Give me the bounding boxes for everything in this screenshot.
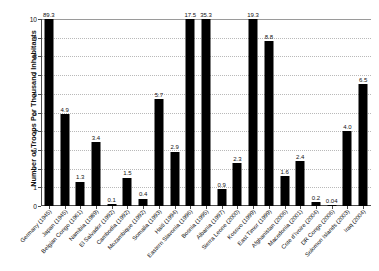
- bar-value-label: 35.3: [200, 12, 212, 18]
- bar-slot: 19.3: [245, 19, 261, 206]
- bar-series: 89.34.91.33.40.11.50.45.72.917.535.30.92…: [41, 19, 371, 206]
- y-axis-tick-label: 3: [33, 146, 37, 153]
- bar-value-label: 4.9: [60, 107, 68, 113]
- bar-slot: 4.9: [57, 19, 73, 206]
- bar-value-label: 5.7: [155, 92, 163, 98]
- y-axis-tick-label: 5: [33, 109, 37, 116]
- bar[interactable]: [343, 131, 352, 206]
- bar-value-label: 0.2: [312, 195, 320, 201]
- bar-slot: 0.9: [214, 19, 230, 206]
- bar-slot: 3.4: [88, 19, 104, 206]
- bar-slot: 1.3: [72, 19, 88, 206]
- bar[interactable]: [91, 142, 100, 206]
- bar-value-label: 4.0: [343, 124, 351, 130]
- bar[interactable]: [76, 182, 85, 206]
- bar-slot: 8.8: [261, 19, 277, 206]
- bar-slot: 4.0: [340, 19, 356, 206]
- bar-slot: 0.1: [104, 19, 120, 206]
- y-axis-tick-label: 7: [33, 72, 37, 79]
- bar[interactable]: [201, 19, 210, 206]
- y-axis-tick-label: 1: [33, 184, 37, 191]
- bar-slot: 89.3: [41, 19, 57, 206]
- bar-value-label: 2.4: [296, 154, 304, 160]
- bar-value-label: 0.4: [139, 191, 147, 197]
- bar-slot: 0.2: [308, 19, 324, 206]
- bar[interactable]: [60, 114, 69, 206]
- bar-value-label: 0.1: [108, 197, 116, 203]
- bar-value-label: 3.4: [92, 135, 100, 141]
- bar-value-label: 2.9: [170, 144, 178, 150]
- bar-value-label: 0.04: [326, 198, 338, 204]
- bar[interactable]: [44, 19, 53, 206]
- bar[interactable]: [123, 178, 132, 206]
- bar-value-label: 6.5: [359, 77, 367, 83]
- bar-value-label: 2.3: [233, 156, 241, 162]
- bar-value-label: 0.9: [218, 182, 226, 188]
- bar-value-label: 17.5: [184, 12, 196, 18]
- bar[interactable]: [217, 189, 226, 206]
- bar-slot: 35.3: [198, 19, 214, 206]
- bar-slot: 0.04: [324, 19, 340, 206]
- y-axis-tick-label: 9: [33, 34, 37, 41]
- bar[interactable]: [359, 84, 368, 206]
- bar-slot: 1.6: [277, 19, 293, 206]
- bar-slot: 2.9: [167, 19, 183, 206]
- bar[interactable]: [170, 152, 179, 206]
- bar-value-label: 8.8: [265, 34, 273, 40]
- bar-slot: 17.5: [182, 19, 198, 206]
- bar[interactable]: [154, 99, 163, 206]
- bar[interactable]: [280, 176, 289, 206]
- bar-slot: 6.5: [355, 19, 371, 206]
- x-axis: Germany (1945)Japan (1945)Belgian Congo …: [41, 206, 371, 271]
- bar-value-label: 89.3: [43, 12, 55, 18]
- bar-slot: 0.4: [135, 19, 151, 206]
- y-axis-tick-label: 6: [33, 90, 37, 97]
- bar[interactable]: [296, 161, 305, 206]
- bar-slot: 2.3: [230, 19, 246, 206]
- y-axis-tick-label: 10: [30, 16, 37, 23]
- bar[interactable]: [186, 19, 195, 206]
- bar-value-label: 19.3: [247, 12, 259, 18]
- y-axis-tick-label: 4: [33, 128, 37, 135]
- bar[interactable]: [233, 163, 242, 206]
- y-axis-tick-label: 8: [33, 53, 37, 60]
- bar[interactable]: [139, 199, 148, 206]
- bar-slot: 2.4: [292, 19, 308, 206]
- bar-chart: Number of Troops Per Thousand Inhabitant…: [0, 0, 379, 271]
- bar-slot: 5.7: [151, 19, 167, 206]
- bar-slot: 1.5: [120, 19, 136, 206]
- bar-value-label: 1.3: [76, 174, 84, 180]
- y-axis-tick-label: 0: [33, 203, 37, 210]
- bar[interactable]: [249, 19, 258, 206]
- y-axis: 012345678910: [0, 19, 41, 206]
- y-axis-tick-label: 2: [33, 165, 37, 172]
- bar-value-label: 1.6: [280, 169, 288, 175]
- bar-value-label: 1.5: [123, 170, 131, 176]
- bar[interactable]: [264, 41, 273, 206]
